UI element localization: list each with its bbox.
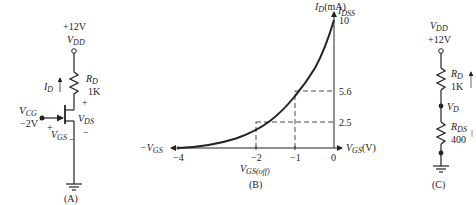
panel-a-caption: (A) xyxy=(64,193,78,205)
supply-voltage-label-c: +12V xyxy=(428,34,452,45)
y-tick-2-5: 2.5 xyxy=(339,117,352,128)
dashed-guides xyxy=(256,91,334,148)
vgs-minus: − xyxy=(69,134,75,145)
node-vd-icon xyxy=(439,104,444,109)
vdd-label-c: VDD xyxy=(430,20,448,33)
vcg-value: −2V xyxy=(20,118,39,129)
resistor-rd-icon-c xyxy=(437,68,445,90)
panel-a-circuit: +12V VDD RD 1K ID VCG −2V + VDS − + VGS … xyxy=(19,21,101,205)
rd-value: 1K xyxy=(88,86,101,97)
id-label: ID xyxy=(43,81,53,94)
vd-label: VD xyxy=(447,101,459,114)
panel-c-circuit: VDD +12V RD 1K VD RDS 400 (C) xyxy=(428,20,472,191)
vgs-off-label: VGS(off) xyxy=(240,163,270,176)
rd-value-c: 1K xyxy=(451,81,464,92)
rds-label: RDS xyxy=(450,121,467,134)
vcg-label: VCG xyxy=(19,104,37,118)
supply-terminal-icon-c xyxy=(439,49,444,54)
resistor-rd-icon xyxy=(70,72,78,94)
figure: +12V VDD RD 1K ID VCG −2V + VDS − + VGS … xyxy=(0,0,476,205)
panel-b-caption: (B) xyxy=(249,179,262,191)
x-tick-minus1: −1 xyxy=(290,152,301,163)
panel-c-caption: (C) xyxy=(432,179,445,191)
rd-label: RD xyxy=(85,73,98,86)
x-axis-right-label: VGS(V) xyxy=(346,142,376,155)
supply-voltage-label: +12V xyxy=(63,21,87,32)
transfer-curve xyxy=(178,20,334,148)
node-bottom-icon xyxy=(439,151,444,156)
rd-label-c: RD xyxy=(450,68,463,81)
vdd-label: VDD xyxy=(67,34,85,47)
resistor-rds-icon xyxy=(437,122,445,144)
x-tick-zero: 0 xyxy=(331,152,336,163)
vds-minus: − xyxy=(83,127,89,138)
vds-plus: + xyxy=(82,97,88,108)
x-tick-minus2: −2 xyxy=(251,152,262,163)
ground-icon xyxy=(66,184,82,190)
y-tick-5-6: 5.6 xyxy=(339,86,352,97)
ground-icon-c xyxy=(433,166,449,172)
gate-terminal-icon xyxy=(40,116,45,121)
x-axis-left-label: −VGS xyxy=(140,142,163,155)
panel-b-transfer-curve: −4 −2 −1 0 10 5.6 2.5 ID(mA) IDSS VGS(V)… xyxy=(140,1,376,191)
x-tick-minus4: −4 xyxy=(173,152,184,163)
rds-value: 400 xyxy=(451,134,466,145)
supply-terminal-icon xyxy=(72,49,77,54)
vds-label: VDS xyxy=(78,113,94,126)
vgs-label: VGS xyxy=(51,129,67,142)
